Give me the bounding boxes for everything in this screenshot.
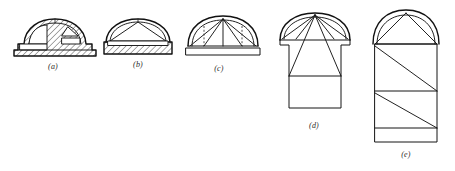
panel-d-drawing [272, 8, 358, 118]
panel-b-void-band-fill [108, 41, 168, 46]
panel-c-drawing [183, 12, 263, 62]
panel-e-tower-outline [375, 44, 437, 142]
panel-d-caption: (d) [303, 121, 325, 130]
panel-b-caption: (b) [127, 60, 149, 69]
panel-a-right-box-fill [62, 38, 80, 44]
panel-d-dome-intrados [284, 17, 346, 39]
panel-a-left-lower-void-fill [20, 44, 47, 50]
panel-e-bracing [375, 46, 437, 128]
panel-d-bracing [289, 15, 341, 76]
panel-c-caption: (c) [208, 64, 230, 73]
panel-b [98, 14, 178, 60]
panel-c [183, 12, 263, 62]
panel-d-tower-outline [280, 40, 350, 108]
panel-b-drawing [98, 14, 178, 60]
panel-e-dome-intrados [377, 15, 435, 44]
panel-c-plinth [186, 48, 260, 55]
figure-root: (a) (b) [0, 0, 455, 171]
panel-b-dome-intrados [110, 22, 166, 41]
panel-b-chords [110, 22, 166, 41]
panel-a-caption: (a) [42, 62, 64, 71]
panel-e-drawing [365, 6, 447, 148]
panel-e [365, 6, 447, 148]
panel-a-drawing [10, 14, 100, 62]
panel-e-caption: (e) [395, 150, 417, 159]
panel-d [272, 8, 358, 118]
panel-a [10, 14, 100, 62]
